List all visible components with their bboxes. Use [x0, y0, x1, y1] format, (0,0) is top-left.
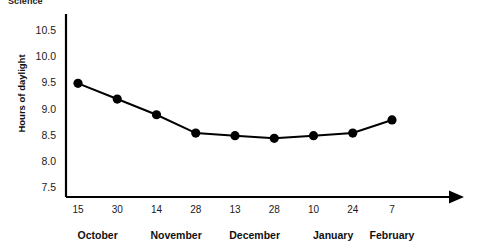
- data-point: [152, 110, 161, 119]
- plot-area: [0, 0, 477, 247]
- data-series-line: [78, 83, 392, 138]
- data-point: [309, 131, 318, 140]
- data-point: [191, 128, 200, 137]
- data-point: [387, 115, 396, 124]
- data-point: [270, 134, 279, 143]
- data-point: [113, 94, 122, 103]
- data-point: [73, 79, 82, 88]
- data-point: [230, 131, 239, 140]
- data-point: [348, 128, 357, 137]
- daylight-line-chart: Science Hours of daylight 10.510.09.59.0…: [0, 0, 477, 247]
